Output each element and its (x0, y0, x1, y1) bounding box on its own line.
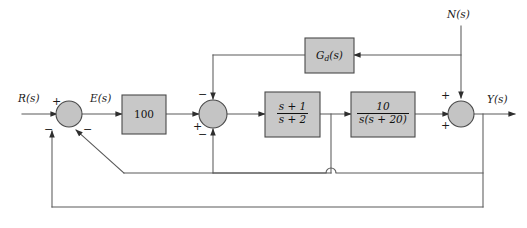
signal-label-output: Y(s) (487, 93, 508, 105)
lead-denominator: s + 2 (277, 113, 309, 126)
disturbance-compensator-label: Gd(s) (305, 49, 354, 63)
feedforward-argument: (s) (329, 49, 343, 61)
summer1-sign-left: + (52, 96, 61, 107)
summing-junction-2 (199, 100, 227, 128)
plant-label: 10 s(s + 20) (351, 101, 415, 126)
summer1-sign-bottom-left: − (44, 124, 53, 135)
signal-label-input: R(s) (18, 92, 40, 104)
diagram-svg (0, 0, 527, 228)
summer1-sign-bottom-right: − (83, 124, 92, 135)
lead-numerator: s + 1 (277, 101, 309, 113)
signal-label-error: E(s) (90, 92, 111, 104)
summer3-sign-top: + (441, 90, 450, 101)
summer2-sign-top: − (198, 89, 207, 100)
block-diagram-canvas: R(s) E(s) N(s) Y(s) + − − − + − + + 100 … (0, 0, 527, 228)
lead-fraction: s + 1 s + 2 (277, 101, 309, 126)
summer2-sign-bottom: − (198, 129, 207, 140)
plant-denominator: s(s + 20) (357, 113, 409, 126)
signal-label-noise: N(s) (447, 8, 470, 20)
summer3-sign-bottom-left: + (441, 120, 450, 131)
summing-junction-3 (448, 101, 474, 127)
wire-outer-feedback-diagonal-to-summer1 (76, 130, 124, 173)
plant-numerator: 10 (357, 101, 409, 113)
lead-compensator-label: s + 1 s + 2 (265, 101, 320, 126)
gain-block-label: 100 (122, 108, 166, 120)
plant-fraction: 10 s(s + 20) (357, 101, 409, 126)
